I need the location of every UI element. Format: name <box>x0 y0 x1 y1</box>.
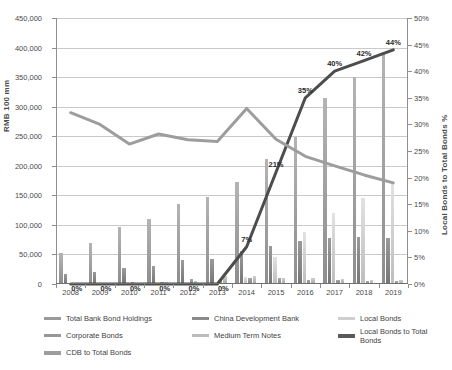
legend-label: Local Bonds to Total Bonds <box>360 327 444 345</box>
y-axis-right-tick-label: 15% <box>414 200 452 209</box>
y-axis-left-tick-label: 400,000 <box>0 43 42 52</box>
y-axis-right-tick <box>408 204 412 205</box>
data-point-label: 42% <box>356 49 371 58</box>
x-axis-tick-label: 2016 <box>297 288 314 297</box>
y-axis-right-tick <box>408 257 412 258</box>
legend-swatch-icon <box>44 351 61 355</box>
y-axis-left-line <box>56 18 57 284</box>
y-axis-left-tick <box>52 136 56 137</box>
x-axis-tick <box>349 284 350 288</box>
legend-label: Local Bonds <box>360 314 401 323</box>
data-point-label: 40% <box>327 59 342 68</box>
data-point-label: 44% <box>386 38 401 47</box>
legend-item[interactable]: CDB to Total Bonds <box>44 344 192 361</box>
legend-label: CDB to Total Bonds <box>66 348 131 357</box>
line-series <box>71 50 394 284</box>
y-axis-left-tick <box>52 254 56 255</box>
legend-swatch-icon <box>44 317 61 320</box>
legend-item[interactable]: Local Bonds <box>338 310 444 327</box>
x-axis-tick-label: 2009 <box>92 288 109 297</box>
x-axis-tick-label: 2008 <box>62 288 79 297</box>
y-axis-right-tick <box>408 151 412 152</box>
y-axis-left-tick <box>52 166 56 167</box>
y-axis-left-tick-label: 200,000 <box>0 161 42 170</box>
x-axis-tick <box>291 284 292 288</box>
y-axis-left-tick <box>52 48 56 49</box>
y-axis-right-tick-label: 5% <box>414 253 452 262</box>
x-axis-tick-label: 2019 <box>385 288 402 297</box>
y-axis-left-tick-label: 100,000 <box>0 220 42 229</box>
y-axis-left-tick-label: 0 <box>0 280 42 289</box>
y-axis-left-tick-label: 450,000 <box>0 14 42 23</box>
y-axis-left-tick-label: 250,000 <box>0 132 42 141</box>
chart-legend: Total Bank Bond HoldingsChina Developmen… <box>44 310 444 361</box>
lines-layer <box>56 18 408 284</box>
y-axis-right-tick <box>408 45 412 46</box>
y-axis-left-tick <box>52 225 56 226</box>
x-axis-tick <box>173 284 174 288</box>
y-axis-right-tick-label: 25% <box>414 147 452 156</box>
y-axis-left-tick <box>52 18 56 19</box>
x-axis-tick <box>115 284 116 288</box>
legend-swatch-icon <box>192 317 209 320</box>
legend-label: Total Bank Bond Holdings <box>66 314 152 323</box>
x-axis-tick-label: 2010 <box>121 288 138 297</box>
legend-item[interactable]: Corporate Bonds <box>44 327 192 344</box>
legend-item[interactable]: Local Bonds to Total Bonds <box>338 327 444 344</box>
data-point-label: 35% <box>298 86 313 95</box>
y-axis-right-tick <box>408 178 412 179</box>
legend-swatch-icon <box>44 334 61 337</box>
x-axis-tick-label: 2018 <box>356 288 373 297</box>
x-axis-tick <box>203 284 204 288</box>
legend-item[interactable]: China Development Bank <box>192 310 338 327</box>
y-axis-left-tick-label: 350,000 <box>0 73 42 82</box>
y-axis-left-tick-label: 300,000 <box>0 102 42 111</box>
data-point-label: 21% <box>268 160 283 169</box>
line-series <box>71 108 394 182</box>
y-axis-right-tick-label: 30% <box>414 120 452 129</box>
y-axis-right-tick-label: 20% <box>414 173 452 182</box>
y-axis-right-tick-label: 35% <box>414 93 452 102</box>
y-axis-left-tick-label: 50,000 <box>0 250 42 259</box>
y-axis-left-tick-label: 150,000 <box>0 191 42 200</box>
y-axis-right-tick-label: 50% <box>414 14 452 23</box>
legend-swatch-icon <box>338 317 355 320</box>
y-axis-left-tick <box>52 107 56 108</box>
y-axis-left-tick <box>52 77 56 78</box>
y-axis-right-tick <box>408 124 412 125</box>
y-axis-right-tick <box>408 18 412 19</box>
y-axis-right-tick-label: 45% <box>414 40 452 49</box>
y-axis-right-tick-label: 0% <box>414 280 452 289</box>
x-axis-tick-label: 2011 <box>151 288 167 297</box>
y-axis-right-tick-label: 40% <box>414 67 452 76</box>
y-axis-left-tick <box>52 195 56 196</box>
x-axis-tick-label: 2012 <box>180 288 197 297</box>
legend-swatch-icon <box>192 334 209 337</box>
x-axis-tick <box>56 284 57 288</box>
legend-label: Corporate Bonds <box>66 331 123 340</box>
x-axis-tick-label: 2013 <box>209 288 226 297</box>
x-axis-tick <box>379 284 380 288</box>
y-axis-right-tick <box>408 71 412 72</box>
x-axis-tick <box>85 284 86 288</box>
legend-item[interactable]: Medium Term Notes <box>192 327 338 344</box>
x-axis-tick <box>408 284 409 288</box>
legend-swatch-icon <box>338 334 355 338</box>
x-axis-tick-label: 2017 <box>326 288 343 297</box>
x-axis-tick-label: 2015 <box>268 288 285 297</box>
legend-label: China Development Bank <box>214 314 299 323</box>
x-axis-tick <box>144 284 145 288</box>
y-axis-right-tick <box>408 231 412 232</box>
legend-item[interactable]: Total Bank Bond Holdings <box>44 310 192 327</box>
x-axis-tick-label: 2014 <box>238 288 255 297</box>
data-point-label: 7% <box>241 235 252 244</box>
chart-container: RMB 100 mm Local Bonds to Total Bonds % … <box>0 0 452 370</box>
x-axis-tick <box>232 284 233 288</box>
x-axis-tick <box>320 284 321 288</box>
plot-area: 0%0%0%0%0%0%7%21%35%40%42%44% <box>56 18 408 284</box>
y-axis-right-tick <box>408 98 412 99</box>
y-axis-right-tick-label: 10% <box>414 226 452 235</box>
x-axis-tick <box>261 284 262 288</box>
legend-label: Medium Term Notes <box>214 331 281 340</box>
